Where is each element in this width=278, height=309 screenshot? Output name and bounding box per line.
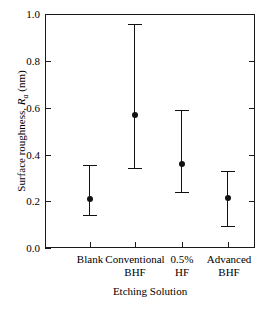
chart-figure: 1.0 0.8 0.6 0.4 0.2 0.0 Blank Convention…: [0, 0, 278, 309]
data-point-blank: [87, 196, 93, 202]
y-tick-right-0_4: [249, 155, 255, 156]
y-tick-0_2: [45, 201, 51, 202]
y-tick-right-0_8: [249, 61, 255, 62]
y-tick-0_0: [45, 248, 51, 249]
errorbar-stem: [89, 165, 90, 215]
y-tick-right-0_2: [249, 201, 255, 202]
errorbar-stem: [181, 110, 182, 192]
y-tick-0_8: [45, 61, 51, 62]
errorbar-blank: [80, 0, 100, 309]
data-point-0-5-hf: [179, 161, 185, 167]
errorbar-cap-lower: [83, 215, 97, 216]
errorbar-advanced-bhf: [218, 0, 238, 309]
x-axis-title: Etching Solution: [45, 285, 255, 298]
y-axis-title-subscript: a: [21, 94, 30, 98]
y-tick-1_0: [45, 14, 51, 15]
errorbar-conventional-bhf: [125, 0, 145, 309]
y-axis-title-units: (nm): [15, 70, 27, 94]
y-tick-right-0_6: [249, 108, 255, 109]
errorbar-cap-lower: [175, 192, 189, 193]
errorbar-stem: [134, 24, 135, 168]
y-axis-title-prefix: Surface roughness,: [15, 105, 27, 191]
data-point-conventional-bhf: [132, 112, 138, 118]
errorbar-cap-lower: [128, 168, 142, 169]
data-point-advanced-bhf: [225, 195, 231, 201]
y-tick-0_6: [45, 108, 51, 109]
y-tick-0_4: [45, 155, 51, 156]
y-axis-title-symbol: R: [15, 98, 27, 105]
errorbar-cap-lower: [221, 226, 235, 227]
errorbar-0-5-hf: [172, 0, 192, 309]
y-axis-title: Surface roughness, Ra (nm): [14, 14, 28, 248]
